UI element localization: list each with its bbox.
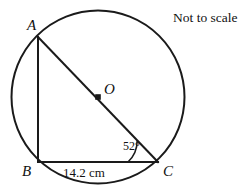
angle-label-acb: 52°: [123, 140, 140, 152]
vertex-label-c: C: [163, 164, 173, 179]
center-label-o: O: [104, 82, 115, 97]
vertex-label-a: A: [27, 18, 36, 33]
geometry-figure: A B C O 14.2 cm 52° Not to scale: [0, 0, 246, 193]
center-point-marker: [95, 94, 101, 100]
geometry-canvas: [0, 0, 246, 193]
side-length-label-bc: 14.2 cm: [63, 166, 105, 179]
not-to-scale-note: Not to scale: [173, 11, 237, 25]
vertex-label-b: B: [22, 164, 31, 179]
